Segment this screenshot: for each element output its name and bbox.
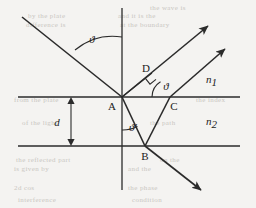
label-thickness-d: d <box>54 116 60 128</box>
internal-ray-b-to-c <box>145 97 170 146</box>
optics-diagram-figure: the wave isby the plateand it is thediff… <box>0 0 256 208</box>
thickness-arrow-down-icon <box>67 139 74 146</box>
transmitted-ray-at-b <box>145 146 201 190</box>
medium-n1-subscript: 1 <box>212 76 218 88</box>
label-angle-at-c: ϑ <box>163 80 169 92</box>
medium-n2-subscript: 2 <box>212 118 218 130</box>
label-angle-refraction: ϑ′ <box>129 121 137 133</box>
label-medium-n2: n2 <box>206 115 218 130</box>
right-angle-mark-icon <box>145 78 156 84</box>
label-point-d: D <box>142 62 150 74</box>
diagram-canvas: A B C D ϑ ϑ ϑ′ d n1 n2 <box>0 0 256 208</box>
incident-ray <box>22 17 122 97</box>
label-angle-incidence: ϑ <box>89 33 95 45</box>
exit-ray-at-c <box>170 49 225 97</box>
label-point-b: B <box>141 150 148 162</box>
label-point-c: C <box>170 100 177 112</box>
label-medium-n1: n1 <box>206 73 217 88</box>
label-point-a: A <box>108 100 116 112</box>
angle-arc-incidence <box>75 36 122 50</box>
perpendicular-segment-a-to-d <box>122 73 152 97</box>
thickness-arrow-up-icon <box>67 97 74 104</box>
angle-arc-at-c <box>152 82 161 97</box>
